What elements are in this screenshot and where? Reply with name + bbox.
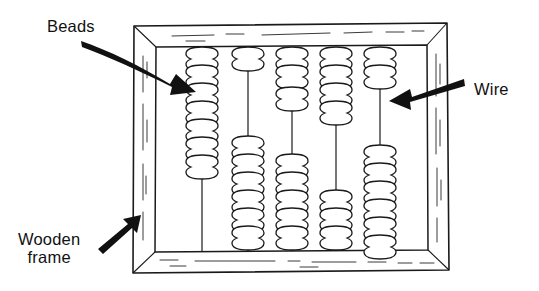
bead-cluster-bottom bbox=[276, 154, 308, 250]
bead-cluster-top bbox=[186, 47, 218, 179]
beads-label: Beads bbox=[47, 17, 95, 35]
bead-cluster-top bbox=[232, 47, 264, 71]
bead-cluster-top bbox=[320, 47, 352, 125]
bead-cluster-top bbox=[276, 47, 308, 111]
bead-cluster-bottom bbox=[364, 145, 396, 259]
bead-cluster-bottom bbox=[320, 190, 352, 250]
wire-label: Wire bbox=[474, 80, 509, 98]
wire-5 bbox=[364, 47, 396, 259]
abacus-illustration bbox=[0, 0, 539, 291]
bead-cluster-bottom bbox=[232, 136, 264, 250]
wooden-frame-label: Wooden frame bbox=[18, 230, 80, 267]
bead-cluster-top bbox=[364, 47, 396, 89]
abacus-figure: Beads Wire Wooden frame bbox=[0, 0, 539, 291]
